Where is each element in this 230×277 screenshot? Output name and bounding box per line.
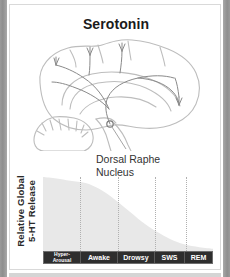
figure-card: Serotonin bbox=[9, 4, 221, 270]
release-chart: Relative Global 5-HT Release Hyper-Arous… bbox=[10, 173, 222, 269]
annotation-line-1: Dorsal Raphe bbox=[96, 153, 216, 166]
right-side-rail bbox=[223, 0, 230, 277]
card-bottom-edge bbox=[9, 273, 221, 277]
state-divider-2 bbox=[118, 177, 119, 251]
y-axis-label: Relative Global 5-HT Release bbox=[15, 166, 37, 256]
release-curve-svg bbox=[43, 177, 213, 251]
state-divider-3 bbox=[155, 177, 156, 251]
state-segment-awake: Awake bbox=[81, 252, 118, 263]
state-segment-drowsy: Drowsy bbox=[118, 252, 155, 263]
figure-panel: Serotonin bbox=[0, 0, 230, 277]
release-area-path bbox=[43, 177, 213, 251]
brain-svg bbox=[10, 31, 222, 151]
axon-terminal-arbors bbox=[54, 43, 182, 105]
plot-area bbox=[43, 177, 213, 251]
state-segment-rem: REM bbox=[185, 252, 212, 263]
state-band: Hyper-ArousalAwakeDrowsySWSREM bbox=[43, 251, 213, 264]
state-divider-4 bbox=[186, 177, 187, 251]
brain-illustration bbox=[10, 31, 222, 151]
state-segment-hyper-arousal: Hyper-Arousal bbox=[44, 252, 81, 263]
y-axis-label-line-2: 5-HT Release bbox=[26, 166, 37, 256]
state-divider-1 bbox=[80, 177, 81, 251]
y-axis-label-line-1: Relative Global bbox=[15, 166, 26, 256]
left-side-rail bbox=[0, 0, 7, 277]
figure-title: Serotonin bbox=[10, 16, 222, 32]
annotation-leader-line bbox=[112, 127, 126, 149]
state-segment-sws: SWS bbox=[155, 252, 185, 263]
